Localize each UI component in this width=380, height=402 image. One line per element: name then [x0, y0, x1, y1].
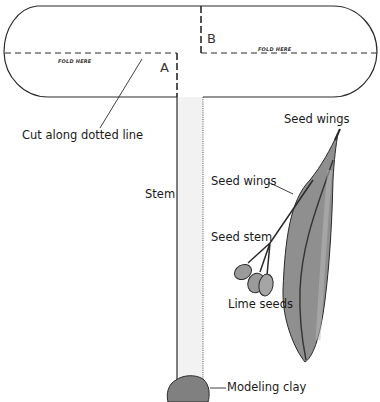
label-seed-wings-top: Seed wings — [284, 114, 350, 126]
panel-label-b: B — [207, 32, 216, 45]
label-stem: Stem — [145, 189, 175, 201]
seed-wing-leaf — [283, 133, 338, 362]
cut-leader — [100, 59, 142, 128]
label-modeling-clay: Modeling clay — [227, 382, 306, 394]
label-cut-along-dotted-line: Cut along dotted line — [22, 130, 143, 142]
label-seed-stem: Seed stem — [211, 232, 272, 244]
label-seed-wings-side: Seed wings — [211, 176, 277, 188]
panel-label-a: A — [160, 61, 169, 74]
label-lime-seeds: Lime seeds — [228, 299, 293, 311]
modeling-clay — [167, 376, 209, 402]
template-drawing — [0, 0, 380, 402]
fold-here-left: FOLD HERE — [58, 58, 91, 64]
fold-here-right: FOLD HERE — [258, 46, 291, 52]
stem-strip — [177, 97, 203, 382]
banner-outline — [4, 6, 377, 97]
